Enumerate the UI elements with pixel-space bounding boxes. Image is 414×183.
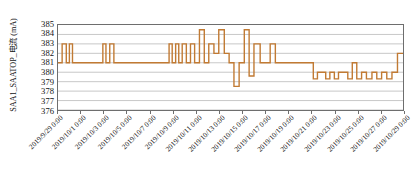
y-tick-label: 376 [26, 107, 54, 116]
x-axis-tick-labels: 2019/9/29 0:002019/10/1 0:002019/10/3 0:… [57, 114, 414, 183]
series-path-saa1-saatop-current [58, 30, 403, 87]
y-tick-label: 379 [26, 78, 54, 87]
data-series-line [58, 25, 403, 110]
y-axis-tick-labels: 385384383382381380379378377376 [26, 20, 54, 112]
y-tick-label: 381 [26, 58, 54, 67]
y-tick-label: 380 [26, 68, 54, 77]
plot-area [57, 24, 404, 111]
y-tick-label: 385 [26, 20, 54, 29]
y-axis-title: SAA1_SAATOP_电流 (mA) [7, 0, 21, 130]
y-tick-label: 377 [26, 97, 54, 106]
y-tick-label: 382 [26, 49, 54, 58]
chart-container: SAA1_SAATOP_电流 (mA) 38538438338238138037… [0, 0, 414, 183]
y-tick-label: 383 [26, 39, 54, 48]
y-tick-label: 384 [26, 29, 54, 38]
y-tick-label: 378 [26, 87, 54, 96]
